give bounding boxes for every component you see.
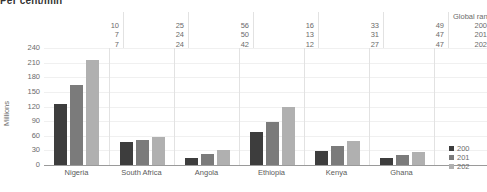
bar (250, 132, 263, 165)
bar-groups (44, 48, 487, 165)
bar (86, 60, 99, 165)
bar (54, 104, 67, 165)
ranking-value: 7 (58, 30, 119, 39)
legend-swatch-icon (449, 155, 454, 160)
bar (396, 155, 409, 165)
legend-swatch-icon (449, 164, 454, 169)
legend-label: 201 (457, 153, 470, 162)
ranking-value: 47 (384, 30, 444, 39)
legend-item[interactable]: 201 (449, 153, 487, 162)
ranking-value: 31 (319, 30, 379, 39)
x-tick-label: South Africa (109, 168, 174, 177)
bar-group (369, 48, 434, 165)
ranking-spacer (254, 12, 314, 21)
bar-group (239, 48, 304, 165)
x-tick-label: Ghana (369, 168, 434, 177)
ranking-value: 33 (319, 21, 379, 30)
x-tick-label: Angola (174, 168, 239, 177)
bar (380, 158, 393, 165)
ranking-year-label: 200 (453, 21, 487, 30)
ranking-column: 1077 (58, 12, 123, 49)
plot-area: Millions 2402101801501209060300 NigeriaS… (0, 48, 487, 192)
legend-label: 202 (457, 162, 470, 171)
ranking-value: 56 (189, 21, 249, 30)
bar-group (304, 48, 369, 165)
x-tick-label: Ethiopia (239, 168, 304, 177)
bar (315, 151, 328, 165)
y-tick-label: 240 (27, 44, 40, 52)
y-tick-label: 90 (32, 117, 40, 125)
x-tick-label: Kenya (304, 168, 369, 177)
ranking-value: 10 (58, 21, 119, 30)
bar (120, 142, 133, 165)
y-axis-label: Millions (2, 101, 11, 126)
ranking-header-label: Global rankin (453, 12, 487, 21)
ranking-spacer (384, 12, 444, 21)
legend-item[interactable]: 200 (449, 144, 487, 153)
bar-group (174, 48, 239, 165)
ranking-value: 13 (254, 30, 314, 39)
ranking-column: 565042 (188, 12, 253, 49)
ranking-value: 50 (189, 30, 249, 39)
y-tick-label: 0 (36, 161, 40, 169)
ranking-value: 49 (384, 21, 444, 30)
legend-label: 200 (457, 144, 470, 153)
ranking-spacer (58, 12, 119, 21)
bar (217, 150, 230, 165)
y-tick-label: 60 (32, 132, 40, 140)
ranking-header-column: Global rankin200201202 (448, 12, 487, 49)
ranking-column: 494747 (383, 12, 448, 49)
y-tick-label: 120 (27, 103, 40, 111)
ranking-column: 161312 (253, 12, 318, 49)
bar (152, 137, 165, 165)
ranking-column: 333127 (318, 12, 383, 49)
chart-legend: 200201202 (449, 144, 487, 171)
ranking-spacer (189, 12, 249, 21)
ranking-year-label: 201 (453, 30, 487, 39)
bar (266, 122, 279, 165)
bars-canvas (44, 48, 487, 166)
y-tick-label: 30 (32, 146, 40, 154)
global-ranking-table: 1077 252424 565042 161312 333127 494747G… (58, 12, 487, 48)
y-tick-label: 150 (27, 88, 40, 96)
bar (185, 158, 198, 165)
y-axis-ticks: 2402101801501209060300 (14, 48, 40, 165)
ranking-column: 252424 (123, 12, 188, 49)
global-ranking-grid: 1077 252424 565042 161312 333127 494747G… (58, 12, 487, 48)
bar-group (109, 48, 174, 165)
y-tick-label: 180 (27, 73, 40, 81)
y-tick-label: 210 (27, 59, 40, 67)
bar (70, 85, 83, 165)
ranking-spacer (124, 12, 184, 21)
ranking-spacer (319, 12, 379, 21)
bar (282, 107, 295, 165)
bar (136, 140, 149, 165)
legend-swatch-icon (449, 146, 454, 151)
bar (412, 152, 425, 165)
ranking-value: 16 (254, 21, 314, 30)
ranking-value: 25 (124, 21, 184, 30)
chart-title: Per cent/min (0, 0, 62, 6)
bar (201, 154, 214, 165)
ranking-value: 24 (124, 30, 184, 39)
legend-item[interactable]: 202 (449, 162, 487, 171)
bar (331, 146, 344, 165)
x-axis-labels: NigeriaSouth AfricaAngolaEthiopiaKenyaGh… (44, 168, 487, 177)
x-tick-label: Nigeria (44, 168, 109, 177)
bar (347, 141, 360, 165)
bar-group (44, 48, 109, 165)
